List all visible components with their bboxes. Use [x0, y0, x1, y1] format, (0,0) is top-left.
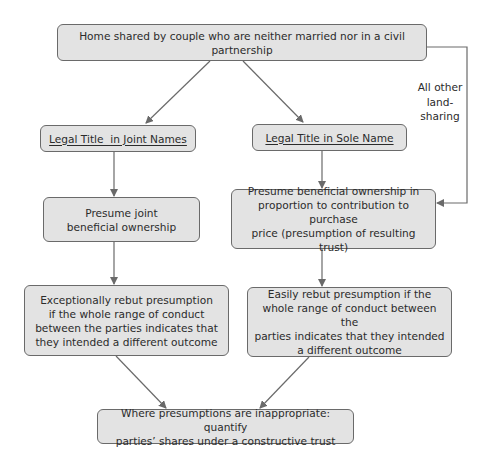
node-joint-presume: Presume joint beneficial ownership [43, 197, 200, 242]
side-label-all-other-land-sharing: All other land- sharing [412, 80, 468, 124]
node-sole-title: Legal Title in Sole Name [252, 124, 407, 151]
node-text-line: parties indicates that they intended [254, 329, 445, 343]
node-text-line: a different outcome [254, 343, 445, 357]
arrow-joint-rebut-to-outcome [116, 356, 166, 408]
node-sole-title-text: Legal Title in Sole Name [265, 131, 393, 145]
node-text-line: Easily rebut presumption if the [254, 287, 445, 301]
node-joint-title: Legal Title in Joint Names [40, 125, 196, 152]
node-root-text: Home shared by couple who are neither ma… [64, 29, 420, 57]
side-label-line: All other [412, 80, 468, 95]
node-root: Home shared by couple who are neither ma… [57, 24, 427, 61]
arrow-root-to-joint-title [146, 61, 210, 123]
node-joint-title-text: Legal Title in Joint Names [49, 132, 187, 146]
node-text-line: whole range of conduct between the [254, 301, 445, 329]
arrow-root-to-sole-presume [427, 47, 467, 203]
node-text-line: between the parties indicates that [35, 321, 218, 335]
node-text-line: if the whole range of conduct [35, 307, 218, 321]
side-label-line: land- [412, 95, 468, 110]
node-text-line: price (presumption of resulting trust) [238, 226, 429, 254]
node-text-line: they intended a different outcome [35, 335, 218, 349]
side-label-line: sharing [412, 109, 468, 124]
node-text-line: proportion to contribution to purchase [238, 198, 429, 226]
node-outcome: Where presumptions are inappropriate: qu… [97, 409, 354, 444]
node-text-line: Exceptionally rebut presumption [35, 293, 218, 307]
node-text-line: Presume beneficial ownership in [238, 184, 429, 198]
node-sole-presume: Presume beneficial ownership in proporti… [231, 189, 436, 249]
node-text-line: parties’ shares under a constructive tru… [104, 434, 347, 448]
node-text-line: Where presumptions are inappropriate: qu… [104, 406, 347, 434]
node-text-line: beneficial ownership [67, 220, 176, 234]
node-text-line: Presume joint [67, 206, 176, 220]
node-joint-rebut: Exceptionally rebut presumption if the w… [24, 285, 229, 356]
node-sole-rebut: Easily rebut presumption if the whole ra… [247, 287, 452, 357]
arrow-root-to-sole-title [243, 61, 303, 122]
arrow-sole-rebut-to-outcome [260, 357, 309, 408]
